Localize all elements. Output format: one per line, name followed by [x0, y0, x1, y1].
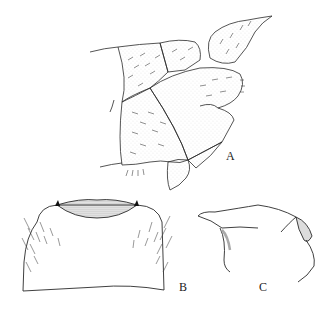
panel-c-drawing [198, 205, 314, 282]
panel-b-setae [22, 216, 172, 272]
panel-label-b: B [179, 281, 187, 293]
illustration-plate: A B C [0, 0, 333, 316]
panel-label-a: A [226, 150, 235, 162]
figure-drawing [0, 0, 333, 316]
panel-label-c: C [259, 281, 267, 293]
panel-b-drawing [23, 200, 164, 291]
panel-a-drawing [90, 16, 272, 190]
